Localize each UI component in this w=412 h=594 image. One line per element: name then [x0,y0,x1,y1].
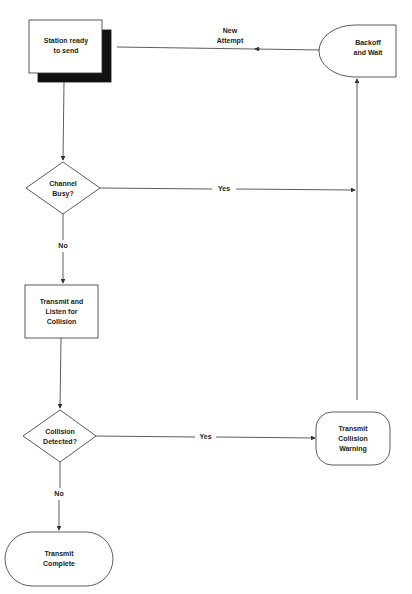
collision-detected-label: Collision Detected? [28,427,92,447]
busy-yes-label: Yes [212,184,236,194]
new-attempt-line [117,47,322,50]
transmit-listen-line2: Listen for [25,307,98,317]
backoff-label: Backoff and Wait [340,38,396,58]
transmit-listen-line1: Transmit and [25,297,98,307]
backoff-line1: Backoff [340,38,396,48]
backoff-line2: and Wait [340,48,396,58]
channel-busy-line2: Busy? [33,189,93,199]
transmit-complete-label: Transmit Complete [5,549,113,569]
busy-no-label: No [52,241,74,251]
channel-busy-label: Channel Busy? [33,179,93,199]
transmit-complete-line2: Complete [5,559,113,569]
new-attempt-line1: New [200,26,260,36]
collision-warning-line1: Transmit [316,424,390,434]
collision-warning-line3: Warning [316,444,390,454]
station-ready-line1: Station ready [30,36,102,46]
collision-yes-label: Yes [195,432,216,442]
station-ready-line2: to send [30,46,102,56]
channel-busy-line1: Channel [33,179,93,189]
collision-warning-label: Transmit Collision Warning [316,424,390,454]
collision-detected-line2: Detected? [28,437,92,447]
collision-no-label: No [48,489,70,499]
station-ready-label: Station ready to send [30,36,102,56]
transmit-complete-line1: Transmit [5,549,113,559]
new-attempt-line2: Attempt [200,36,260,46]
transmit-listen-label: Transmit and Listen for Collision [25,297,98,327]
transmit-listen-line3: Collision [25,317,98,327]
collision-warning-line2: Collision [316,434,390,444]
new-attempt-label: New Attempt [200,26,260,46]
collision-detected-line1: Collision [28,427,92,437]
